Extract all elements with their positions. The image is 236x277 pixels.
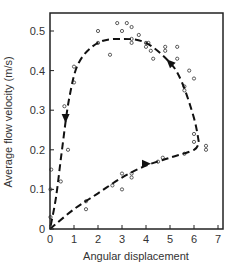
data-point <box>120 172 123 175</box>
data-point <box>192 132 195 135</box>
plot-frame <box>50 13 223 229</box>
data-point <box>120 188 123 191</box>
data-point <box>108 53 111 56</box>
data-point <box>84 208 87 211</box>
x-tick-label: 6 <box>191 233 197 245</box>
x-tick-label: 1 <box>71 233 77 245</box>
data-point <box>130 176 133 179</box>
data-point <box>111 184 114 187</box>
x-tick-label: 4 <box>143 233 149 245</box>
data-point <box>63 105 66 108</box>
chart: 0123456700.10.20.30.40.5 Angular displac… <box>0 0 236 277</box>
x-tick-label: 7 <box>215 233 221 245</box>
y-tick-label: 0.5 <box>30 25 45 37</box>
y-tick-label: 0.2 <box>30 144 45 156</box>
data-point <box>130 41 133 44</box>
data-point <box>176 45 179 48</box>
x-axis-label: Angular displacement <box>83 250 189 262</box>
data-point <box>192 140 195 143</box>
data-point <box>137 33 140 36</box>
x-tick-label: 5 <box>167 233 173 245</box>
data-point <box>72 65 75 68</box>
data-point <box>188 69 191 72</box>
data-point <box>164 45 167 48</box>
y-tick-label: 0.3 <box>30 104 45 116</box>
data-point <box>183 89 186 92</box>
data-point <box>192 77 195 80</box>
data-point <box>96 29 99 32</box>
data-point <box>120 29 123 32</box>
data-point <box>130 25 133 28</box>
data-point <box>204 144 207 147</box>
y-tick-label: 0 <box>39 223 45 235</box>
y-tick-label: 0.1 <box>30 183 45 195</box>
data-point <box>59 180 62 183</box>
data-point <box>204 148 207 151</box>
direction-arrow-icon <box>62 114 70 123</box>
data-point <box>66 148 69 151</box>
x-tick-label: 0 <box>47 233 53 245</box>
x-tick-label: 2 <box>95 233 101 245</box>
y-tick-label: 0.4 <box>30 65 45 77</box>
data-point <box>116 21 119 24</box>
data-point <box>125 21 128 24</box>
y-axis-label: Average flow velocity (m/s) <box>2 56 14 187</box>
axes: 0123456700.10.20.30.40.5 <box>30 13 223 245</box>
data-point <box>152 57 155 60</box>
data-point <box>164 49 167 52</box>
data-point <box>144 45 147 48</box>
plot-area <box>49 21 208 229</box>
dashed-loop-path <box>50 142 199 229</box>
data-point <box>176 57 179 60</box>
data-point <box>149 49 152 52</box>
x-tick-label: 3 <box>119 233 125 245</box>
